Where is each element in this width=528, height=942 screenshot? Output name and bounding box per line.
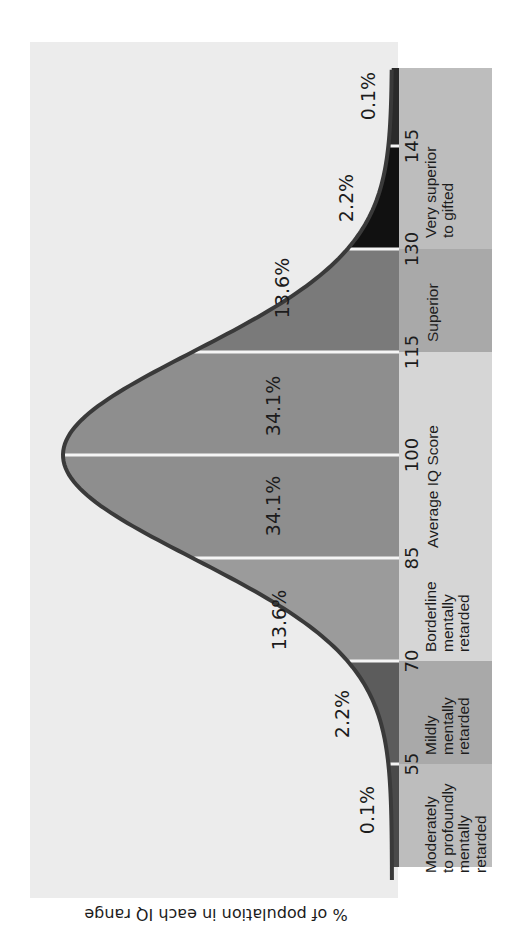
category-label: retarded [455, 594, 472, 652]
percent-label: 13.6% [268, 590, 290, 650]
iq-tick-label: 85 [401, 547, 422, 570]
category-label: Borderline [422, 581, 439, 652]
category-label: Very superior [422, 147, 439, 238]
category-label: retarded [472, 815, 489, 873]
category-label: Average IQ Score [424, 425, 441, 548]
category-label: retarded [455, 697, 472, 755]
iq-tick-label: 145 [401, 129, 422, 163]
iq-tick-label: 55 [401, 753, 422, 776]
category-label: mentally [439, 697, 456, 755]
iq-tick-label: 70 [401, 650, 422, 673]
category-label: to profoundly [439, 783, 456, 873]
iq-tick-label: 100 [401, 438, 422, 472]
category-label: mentally [455, 815, 472, 873]
percent-label: 34.1% [262, 376, 284, 436]
chart-caption: % of population in each IQ range [84, 905, 347, 924]
category-label: Superior [424, 283, 441, 342]
percent-label: 2.2% [335, 174, 357, 222]
percent-label: 13.6% [271, 258, 293, 318]
percent-label: 0.1% [356, 786, 378, 834]
category-label: mentally [439, 594, 456, 652]
iq-tick-label: 115 [401, 335, 422, 369]
percent-label: 34.1% [262, 476, 284, 536]
category-label: Moderately [422, 796, 439, 873]
category-label: Mildly [422, 715, 439, 755]
iq-distribution-chart: 0.1%2.2%13.6%34.1%34.1%13.6%2.2%0.1% 557… [0, 0, 528, 942]
percent-label: 0.1% [357, 72, 379, 120]
percent-label: 2.2% [331, 690, 353, 738]
category-label: to gifted [439, 183, 456, 238]
iq-tick-label: 130 [401, 232, 422, 266]
